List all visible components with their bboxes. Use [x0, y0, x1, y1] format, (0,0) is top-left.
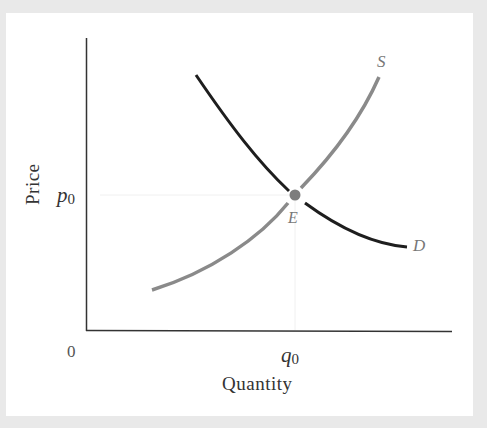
y-axis-label: Price — [22, 163, 44, 205]
supply-curve — [152, 77, 379, 290]
equilibrium-label: E — [288, 209, 298, 227]
q-symbol: q — [281, 343, 292, 367]
p0-tick-label: p0 — [57, 183, 75, 208]
q-subscript: 0 — [292, 351, 300, 367]
p-subscript: 0 — [68, 191, 76, 207]
x-axis-label: Quantity — [222, 373, 293, 395]
demand-label: D — [413, 236, 425, 256]
x-axis — [86, 331, 452, 332]
q0-tick-label: q0 — [281, 343, 299, 368]
demand-curve — [196, 75, 407, 247]
p-symbol: p — [57, 183, 68, 207]
origin-label: 0 — [67, 342, 76, 362]
equilibrium-point — [290, 190, 301, 201]
chart-canvas — [0, 0, 487, 428]
supply-label: S — [377, 52, 386, 72]
